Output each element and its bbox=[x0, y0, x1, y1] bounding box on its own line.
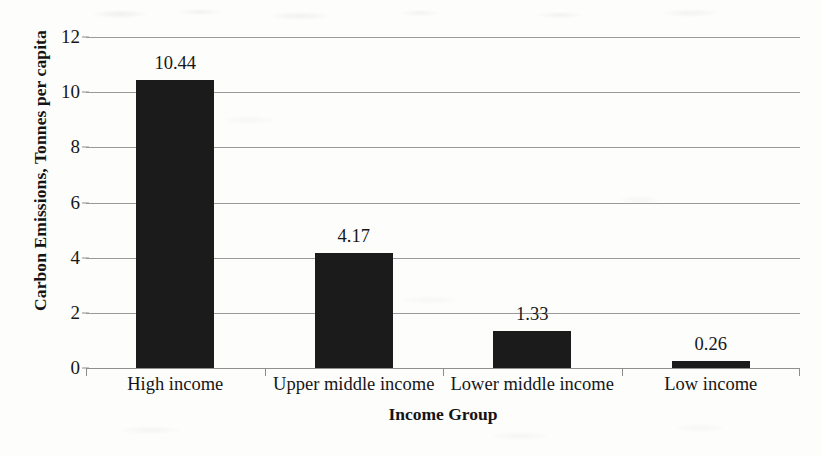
x-tick-mark bbox=[265, 368, 266, 376]
y-tick-label: 2 bbox=[40, 302, 80, 324]
bar[interactable] bbox=[672, 361, 750, 368]
y-tick-label: 0 bbox=[40, 357, 80, 379]
y-tick-label: 12 bbox=[40, 26, 80, 48]
bar-chart: Carbon Emissions, Tonnes per capita 0246… bbox=[0, 0, 821, 456]
y-tick-label: 6 bbox=[40, 192, 80, 214]
y-tick-label: 4 bbox=[40, 247, 80, 269]
y-tick-label: 10 bbox=[40, 81, 80, 103]
y-tick-label: 8 bbox=[40, 136, 80, 158]
gridline bbox=[86, 37, 800, 38]
x-category-label: Upper middle income bbox=[273, 374, 434, 395]
plot-area: 10.444.171.330.26 bbox=[86, 37, 800, 368]
x-tick-mark bbox=[443, 368, 444, 376]
x-tick-mark bbox=[622, 368, 623, 376]
x-axis-end-tick bbox=[86, 368, 87, 376]
bar[interactable] bbox=[136, 80, 214, 368]
x-category-label: High income bbox=[127, 374, 223, 395]
bar-value-label: 4.17 bbox=[338, 226, 370, 247]
y-axis-ticks: 024681012 bbox=[40, 37, 80, 368]
bar[interactable] bbox=[493, 331, 571, 368]
bar-value-label: 0.26 bbox=[695, 334, 727, 355]
x-category-label: Low income bbox=[664, 374, 757, 395]
bar-value-label: 1.33 bbox=[516, 304, 548, 325]
bar[interactable] bbox=[315, 253, 393, 368]
bar-value-label: 10.44 bbox=[154, 53, 196, 74]
x-category-label: Lower middle income bbox=[451, 374, 614, 395]
x-axis-title: Income Group bbox=[86, 404, 800, 425]
x-axis-end-tick bbox=[799, 368, 800, 376]
